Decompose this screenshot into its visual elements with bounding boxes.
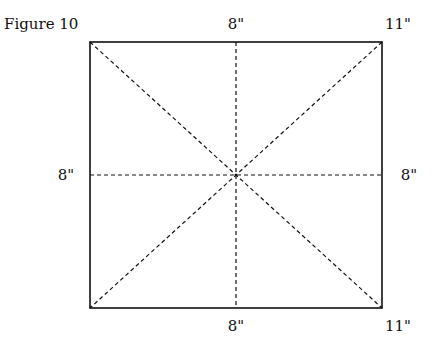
folding-diagram [0, 0, 439, 346]
